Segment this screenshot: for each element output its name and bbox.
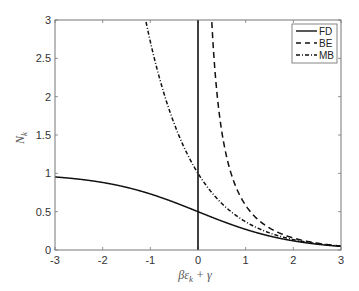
y-tick-label: 1 (45, 167, 51, 179)
y-tick-label: 1.5 (36, 129, 51, 141)
y-tick-label: 2.5 (36, 52, 51, 64)
chart: -3-2-1012300.511.522.53 FD BE MB βεk + γ… (0, 0, 359, 291)
x-tick-label: 0 (195, 254, 201, 266)
x-tick-label: -1 (145, 254, 155, 266)
x-tick-label: 1 (243, 254, 249, 266)
y-tick-label: 0 (45, 244, 51, 256)
legend-label-mb: MB (319, 50, 334, 61)
y-tick-label: 3 (45, 14, 51, 26)
x-tick-label: -2 (98, 254, 108, 266)
x-axis-label: βεk + γ (177, 268, 212, 284)
legend: FD BE MB (292, 24, 337, 63)
y-tick-label: 0.5 (36, 206, 51, 218)
x-tick-label: 2 (290, 254, 296, 266)
y-tick-label: 2 (45, 91, 51, 103)
y-axis-label: Nk (13, 131, 29, 145)
legend-label-be: BE (319, 38, 333, 49)
legend-label-fd: FD (319, 26, 332, 37)
x-tick-label: 3 (338, 254, 344, 266)
x-tick-label: -3 (50, 254, 60, 266)
